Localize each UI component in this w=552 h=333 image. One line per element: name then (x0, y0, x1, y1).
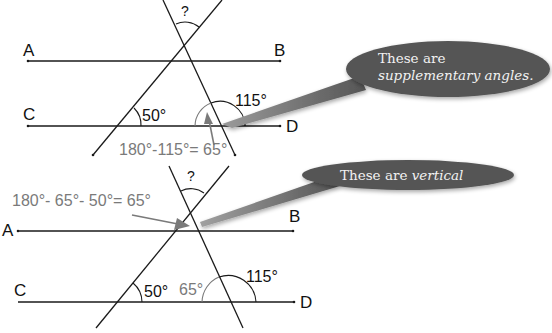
top-point-b-label: B (274, 42, 285, 59)
bottom-callout-tail (200, 180, 340, 227)
top-point-c-label: C (23, 106, 35, 123)
top-angle-115-label: 115° (235, 93, 267, 109)
top-transversal-left (93, 0, 222, 155)
top-transversal-right (163, 0, 235, 155)
bottom-angle-65-label: 65° (179, 282, 203, 298)
top-angle-50-label: 50° (142, 108, 166, 124)
top-equation: 180°-115°= 65° (119, 142, 227, 158)
bottom-arrow-head (174, 218, 190, 230)
top-unknown-angle-label: ? (181, 4, 189, 18)
top-unknown-angle-arc (176, 22, 199, 27)
bottom-point-a-label: A (2, 222, 13, 239)
bottom-diagram (17, 160, 514, 328)
top-50-angle-arc (134, 108, 141, 126)
top-callout-text: These are supplementary angles. (378, 50, 533, 84)
bottom-angle-115-label: 115° (246, 269, 278, 285)
bottom-transversal-left (96, 166, 229, 328)
bottom-unknown-angle-label: ? (187, 169, 195, 183)
bottom-point-b-label: B (289, 208, 300, 225)
bottom-equation: 180°- 65°- 50°= 65° (12, 193, 151, 209)
bottom-transversal-right (169, 166, 243, 328)
bottom-angle-50-label: 50° (144, 284, 168, 300)
top-callout-line1: These are (378, 50, 533, 67)
bottom-50-angle-arc (133, 283, 142, 302)
top-arrow-head (204, 112, 213, 124)
bottom-callout-prefix: These are (340, 167, 412, 183)
bottom-unknown-angle-arc (181, 189, 204, 193)
bottom-point-c-label: C (14, 282, 26, 299)
bottom-point-d-label: D (300, 294, 312, 311)
top-point-d-label: D (286, 118, 298, 135)
bottom-65-angle-arc (202, 277, 219, 302)
top-callout-line2: supplementary angles. (378, 67, 533, 83)
bottom-callout-text: These are vertical (340, 167, 463, 184)
parallel-lines-angle-diagram: ? A B C D 50° 115° 180°-115°= 65° These … (0, 0, 552, 333)
bottom-callout-emphasis: vertical (412, 167, 464, 183)
top-point-a-label: A (23, 42, 34, 59)
